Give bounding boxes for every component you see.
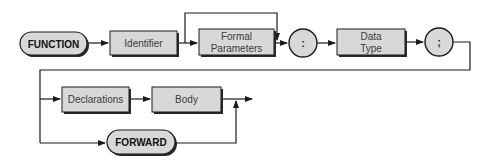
- formal-parameters-node: Formal Parameters: [199, 29, 276, 57]
- formal-parameters-label-line2: Parameters: [211, 43, 263, 54]
- function-label: FUNCTION: [28, 39, 80, 50]
- body-node: Body: [152, 87, 223, 114]
- identifier-label: Identifier: [124, 38, 163, 49]
- forward-keyword-node: FORWARD: [107, 130, 177, 156]
- formal-parameters-label-line1: Formal: [221, 31, 252, 42]
- colon-node: :: [289, 29, 317, 57]
- data-type-node: Data Type: [337, 29, 407, 57]
- data-type-label-line1: Data: [360, 31, 382, 42]
- identifier-node: Identifier: [110, 31, 179, 57]
- function-keyword-node: FUNCTION: [20, 32, 89, 57]
- semicolon-node: ;: [425, 28, 453, 56]
- semicolon-label: ;: [437, 36, 441, 48]
- colon-label: :: [301, 37, 305, 49]
- data-type-label-line2: Type: [360, 43, 382, 54]
- forward-label: FORWARD: [115, 137, 166, 148]
- declarations-node: Declarations: [62, 87, 131, 114]
- body-label: Body: [175, 94, 198, 105]
- declarations-label: Declarations: [68, 94, 124, 105]
- syntax-diagram: FUNCTION Identifier Formal Parameters : …: [0, 0, 488, 167]
